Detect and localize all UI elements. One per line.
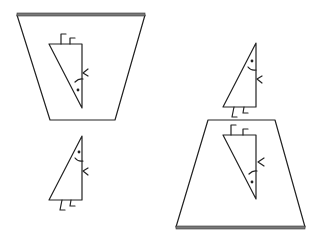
illustration-canvas — [0, 0, 321, 240]
leg-left — [60, 200, 65, 210]
right-mirror-trapezoid — [176, 120, 305, 227]
right-mirror-panel — [176, 120, 305, 229]
left-mirror-trapezoid — [17, 15, 145, 120]
reflected-eye-icon — [77, 89, 80, 92]
reflected-eye-icon — [251, 181, 254, 184]
triangle-body — [223, 43, 256, 107]
triangle-body — [49, 136, 82, 200]
leg-right — [70, 200, 75, 206]
leg-left — [232, 107, 237, 117]
left-mirror-panel — [17, 13, 145, 120]
hand-icon — [257, 76, 262, 83]
hand-icon — [83, 168, 88, 175]
right-standing-character — [223, 43, 262, 117]
left-mirror-edge-bar — [17, 13, 145, 16]
eye-icon — [78, 151, 81, 154]
mirror-reflection-diagram — [0, 0, 321, 240]
left-standing-character — [49, 136, 88, 210]
leg-right — [243, 107, 248, 113]
eye-icon — [251, 60, 254, 63]
right-mirror-edge-bar — [176, 226, 305, 229]
smile — [248, 67, 256, 70]
